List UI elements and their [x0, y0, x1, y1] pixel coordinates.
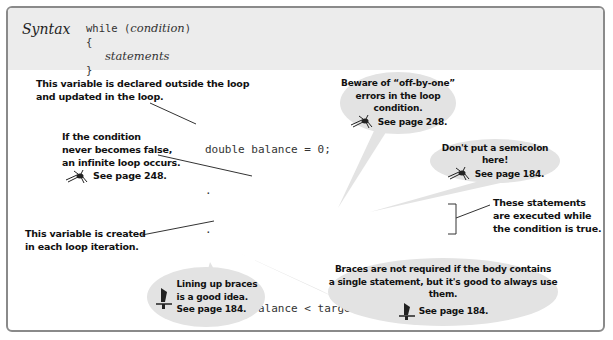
bubble-text: Lining up braces is a good idea. See pag… — [177, 278, 258, 316]
code-line: . — [205, 185, 483, 196]
spider-icon — [446, 167, 472, 181]
bubble-line: See page 184. — [177, 303, 258, 316]
sign-icon — [398, 301, 416, 321]
note-line: See page 248. — [62, 169, 180, 184]
bubble-line: See page 248. — [349, 115, 448, 129]
bubble-line: Braces are not required if the body cont… — [335, 263, 551, 276]
bubble-semicolon: Don't put a semicolon here! See page 184… — [430, 139, 560, 183]
note-infinite-loop: If the condition never becomes false, an… — [62, 130, 180, 184]
declared-line — [150, 103, 196, 124]
note-line: the condition is true. — [493, 222, 601, 235]
spider-icon — [64, 170, 90, 184]
bubble-line: errors in the loop condition. — [340, 90, 456, 115]
code-line: . — [205, 224, 483, 235]
page-ref: See page 248. — [378, 116, 448, 126]
page-ref: See page 184. — [475, 168, 545, 178]
bubble-line: Lining up braces — [177, 278, 258, 291]
note-line: never becomes false, — [62, 143, 180, 156]
sign-icon — [155, 284, 173, 310]
bubble-line: Beware of “off-by-one” — [341, 77, 455, 90]
bubble-line: See page 184. — [446, 167, 545, 181]
note-line: These statements — [493, 196, 601, 209]
note-line: and updated in the loop. — [36, 90, 249, 103]
spider-icon — [349, 115, 375, 129]
bubble-lining-up: Lining up braces is a good idea. See pag… — [147, 267, 265, 327]
note-line: This variable is declared outside the lo… — [36, 77, 249, 90]
note-declared-outside: This variable is declared outside the lo… — [36, 77, 249, 103]
bubble-braces-not-required: Braces are not required if the body cont… — [328, 258, 558, 326]
page-ref: See page 248. — [93, 170, 167, 181]
page-ref: See page 184. — [419, 305, 489, 315]
bubble-line: Don't put a semicolon here! — [430, 142, 560, 167]
bubble-content: Lining up braces is a good idea. See pag… — [155, 278, 258, 316]
created-line — [142, 221, 214, 235]
note-created-each: This variable is created in each loop it… — [25, 227, 146, 253]
bubble-line: is a good idea. — [177, 291, 258, 304]
note-executed-while: These statements are executed while the … — [493, 196, 601, 235]
note-line: are executed while — [493, 209, 601, 222]
note-line: If the condition — [62, 130, 180, 143]
note-line: in each loop iteration. — [25, 240, 146, 253]
bubble-off-by-one: Beware of “off-by-one” errors in the loo… — [340, 72, 456, 134]
note-line: an infinite loop occurs. — [62, 156, 180, 169]
bubble-line: See page 184. — [398, 301, 489, 321]
note-line: This variable is created — [25, 227, 146, 240]
bubble-line: a single statement, but it's good to alw… — [328, 276, 558, 301]
